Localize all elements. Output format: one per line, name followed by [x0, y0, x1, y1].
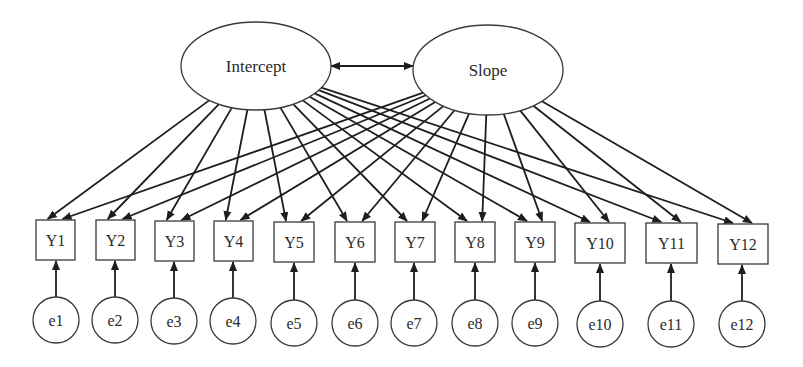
error-label: e4: [225, 313, 240, 330]
intercept-factor-node: Intercept: [181, 22, 331, 110]
observed-node-y3: Y3: [155, 221, 194, 261]
observed-label: Y2: [106, 232, 126, 249]
observed-label: Y11: [658, 235, 685, 252]
error-node-e4: e4: [210, 298, 256, 344]
error-label: e7: [406, 315, 421, 332]
error-node-e8: e8: [452, 300, 498, 346]
error-label: e3: [166, 313, 181, 330]
error-label: e6: [347, 315, 362, 332]
observed-label: Y6: [345, 234, 365, 251]
observed-node-y12: Y12: [718, 224, 768, 264]
intercept-to-y4-arrow: [226, 110, 248, 220]
observed-label: Y3: [165, 233, 185, 250]
observed-node-y11: Y11: [646, 223, 697, 263]
growth-curve-diagram: InterceptSlopeY1Y2Y3Y4Y5Y6Y7Y8Y9Y10Y11Y1…: [0, 0, 803, 367]
intercept-to-y7-arrow: [293, 104, 407, 221]
error-label: e12: [730, 316, 753, 333]
error-label: e9: [527, 315, 542, 332]
error-node-e1: e1: [33, 297, 79, 343]
error-node-e11: e11: [648, 301, 694, 347]
error-label: e8: [467, 315, 482, 332]
slope-factor-node: Slope: [413, 25, 563, 115]
observed-label: Y12: [729, 236, 757, 253]
observed-label: Y9: [525, 234, 545, 251]
observed-label: Y8: [465, 234, 485, 251]
intercept-to-y8-arrow: [303, 100, 467, 221]
error-node-e9: e9: [512, 300, 558, 346]
observed-node-y5: Y5: [274, 222, 314, 262]
edges-layer: [48, 66, 752, 301]
error-label: e10: [588, 316, 611, 333]
observed-node-y6: Y6: [335, 222, 375, 262]
observed-node-y8: Y8: [455, 222, 495, 262]
intercept-to-y1-arrow: [48, 100, 209, 219]
error-node-e6: e6: [332, 300, 378, 346]
observed-node-y2: Y2: [96, 220, 135, 260]
observed-node-y1: Y1: [36, 220, 75, 260]
diagram-canvas: InterceptSlopeY1Y2Y3Y4Y5Y6Y7Y8Y9Y10Y11Y1…: [0, 0, 803, 367]
slope-to-y1-arrow: [63, 93, 424, 219]
observed-label: Y10: [586, 235, 614, 252]
slope-to-y8-arrow: [482, 115, 486, 221]
observed-label: Y1: [46, 232, 66, 249]
error-node-e12: e12: [719, 301, 765, 347]
observed-node-y9: Y9: [515, 222, 555, 262]
observed-node-y4: Y4: [214, 221, 253, 261]
slope-to-y5-arrow: [301, 106, 443, 221]
error-label: e5: [286, 315, 301, 332]
error-node-e5: e5: [271, 300, 317, 346]
slope-to-y10-arrow: [520, 111, 609, 222]
slope-to-y12-arrow: [542, 101, 752, 223]
intercept-label: Intercept: [226, 57, 287, 76]
error-label: e2: [107, 312, 122, 329]
error-label: e1: [48, 312, 63, 329]
observed-label: Y7: [405, 234, 425, 251]
observed-label: Y4: [224, 233, 244, 250]
observed-node-y10: Y10: [575, 223, 625, 263]
slope-to-y4-arrow: [241, 102, 436, 220]
slope-to-y6-arrow: [362, 110, 454, 221]
observed-node-y7: Y7: [395, 222, 435, 262]
observed-label: Y5: [284, 234, 304, 251]
error-node-e10: e10: [577, 301, 623, 347]
error-node-e3: e3: [151, 298, 197, 344]
slope-label: Slope: [469, 61, 508, 80]
nodes-layer: InterceptSlopeY1Y2Y3Y4Y5Y6Y7Y8Y9Y10Y11Y1…: [33, 22, 768, 347]
error-node-e7: e7: [391, 300, 437, 346]
error-node-e2: e2: [92, 297, 138, 343]
error-label: e11: [660, 316, 683, 333]
